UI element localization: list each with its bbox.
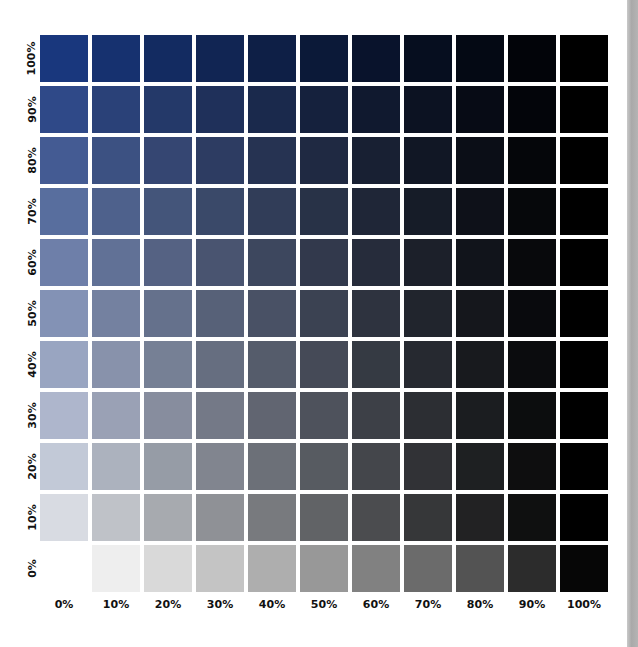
- y-axis-label-text: 90%: [26, 96, 39, 122]
- y-axis-label-text: 50%: [26, 300, 39, 326]
- y-axis-label-text: 80%: [26, 147, 39, 173]
- swatch-cell: [92, 86, 140, 133]
- swatch-cell: [560, 239, 608, 286]
- swatch-cell: [352, 290, 400, 337]
- swatch-cell: [300, 545, 348, 592]
- swatch-cell: [92, 137, 140, 184]
- y-axis-label: 20%: [22, 443, 42, 490]
- swatch-cell: [560, 392, 608, 439]
- swatch-cell: [404, 392, 452, 439]
- swatch-cell: [300, 239, 348, 286]
- swatch-cell: [40, 494, 88, 541]
- swatch-cell: [508, 290, 556, 337]
- swatch-cell: [144, 443, 192, 490]
- swatch-cell: [456, 392, 504, 439]
- x-axis-label: 10%: [92, 598, 140, 611]
- swatch-cell: [560, 35, 608, 82]
- swatch-cell: [40, 35, 88, 82]
- swatch-cell: [508, 239, 556, 286]
- swatch-cell: [508, 86, 556, 133]
- swatch-cell: [196, 494, 244, 541]
- swatch-cell: [248, 341, 296, 388]
- swatch-cell: [404, 137, 452, 184]
- swatch-cell: [352, 137, 400, 184]
- swatch-cell: [92, 545, 140, 592]
- x-axis-label: 40%: [248, 598, 296, 611]
- swatch-cell: [560, 443, 608, 490]
- swatch-cell: [144, 392, 192, 439]
- swatch-cell: [560, 341, 608, 388]
- swatch-cell: [508, 35, 556, 82]
- swatch-cell: [92, 188, 140, 235]
- swatch-cell: [144, 545, 192, 592]
- y-axis-label-text: 10%: [26, 504, 39, 530]
- swatch-cell: [352, 341, 400, 388]
- swatch-cell: [248, 35, 296, 82]
- swatch-cell: [456, 35, 504, 82]
- swatch-cell: [196, 341, 244, 388]
- y-axis-label: 0%: [22, 545, 42, 592]
- y-axis-label: 40%: [22, 341, 42, 388]
- swatch-cell: [92, 494, 140, 541]
- swatch-cell: [144, 35, 192, 82]
- y-axis-label-text: 100%: [26, 42, 39, 76]
- swatch-cell: [248, 239, 296, 286]
- swatch-cell: [404, 341, 452, 388]
- swatch-cell: [196, 137, 244, 184]
- swatch-cell: [300, 188, 348, 235]
- swatch-cell: [404, 86, 452, 133]
- swatch-cell: [196, 188, 244, 235]
- x-axis-label: 30%: [196, 598, 244, 611]
- swatch-cell: [508, 137, 556, 184]
- swatch-cell: [196, 86, 244, 133]
- swatch-cell: [196, 239, 244, 286]
- swatch-cell: [144, 290, 192, 337]
- color-swatch-chart: 100%90%80%70%60%50%40%30%20%10%0% 0%10%2…: [0, 0, 638, 647]
- swatch-cell: [92, 341, 140, 388]
- swatch-cell: [560, 86, 608, 133]
- swatch-cell: [404, 494, 452, 541]
- x-axis-label: 100%: [560, 598, 608, 611]
- swatch-cell: [144, 188, 192, 235]
- swatch-cell: [40, 239, 88, 286]
- swatch-cell: [404, 35, 452, 82]
- swatch-cell: [92, 239, 140, 286]
- swatch-cell: [352, 239, 400, 286]
- swatch-cell: [92, 290, 140, 337]
- y-axis-label-text: 60%: [26, 249, 39, 275]
- swatch-cell: [248, 137, 296, 184]
- swatch-cell: [196, 443, 244, 490]
- swatch-cell: [456, 188, 504, 235]
- x-axis-label: 60%: [352, 598, 400, 611]
- swatch-cell: [92, 392, 140, 439]
- x-axis-label: 20%: [144, 598, 192, 611]
- swatch-cell: [300, 35, 348, 82]
- swatch-cell: [300, 137, 348, 184]
- x-axis-label: 70%: [404, 598, 452, 611]
- swatch-cell: [92, 443, 140, 490]
- y-axis-label-text: 30%: [26, 402, 39, 428]
- swatch-cell: [456, 137, 504, 184]
- swatch-cell: [456, 239, 504, 286]
- swatch-cell: [560, 137, 608, 184]
- swatch-cell: [352, 35, 400, 82]
- swatch-cell: [352, 86, 400, 133]
- swatch-cell: [560, 494, 608, 541]
- swatch-cell: [300, 494, 348, 541]
- swatch-cell: [300, 341, 348, 388]
- swatch-cell: [560, 290, 608, 337]
- swatch-cell: [456, 545, 504, 592]
- swatch-cell: [508, 494, 556, 541]
- swatch-cell: [456, 494, 504, 541]
- swatch-cell: [196, 290, 244, 337]
- swatch-cell: [248, 545, 296, 592]
- swatch-cell: [508, 188, 556, 235]
- swatch-cell: [248, 86, 296, 133]
- swatch-cell: [456, 290, 504, 337]
- page-edge-strip: [627, 0, 638, 647]
- swatch-cell: [508, 545, 556, 592]
- swatch-cell: [92, 35, 140, 82]
- x-axis-label: 90%: [508, 598, 556, 611]
- swatch-cell: [352, 188, 400, 235]
- swatch-cell: [40, 545, 88, 592]
